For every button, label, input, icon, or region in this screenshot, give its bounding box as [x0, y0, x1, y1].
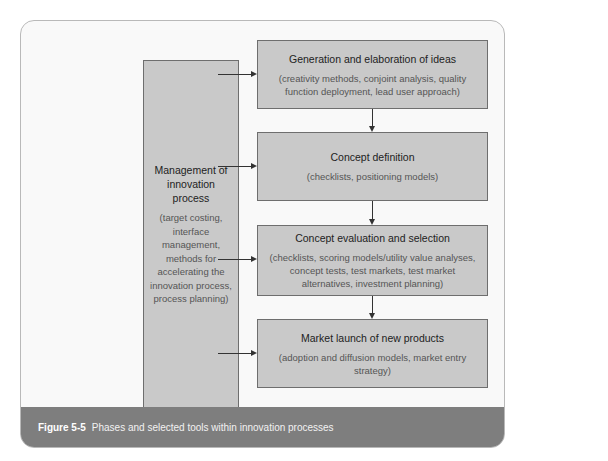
phase-title: Concept definition — [268, 150, 477, 164]
phase-tools: (creativity methods, conjoint analysis, … — [268, 72, 477, 98]
phase-box-concept-evaluation: Concept evaluation and selection (checkl… — [257, 225, 488, 296]
caption-bar: Figure 5-5 Phases and selected tools wit… — [21, 407, 504, 447]
connector-line — [218, 259, 252, 260]
arrow-right-icon — [251, 256, 257, 262]
phase-tools: (adoption and diffusion models, market e… — [268, 351, 477, 377]
figure-caption: Phases and selected tools within innovat… — [92, 422, 334, 433]
connector-line — [372, 296, 373, 313]
arrow-right-icon — [251, 71, 257, 77]
connector-line — [218, 353, 252, 354]
phase-title: Market launch of new products — [268, 331, 477, 345]
phase-title: Generation and elaboration of ideas — [268, 52, 477, 66]
connector-line — [372, 201, 373, 219]
arrow-down-icon — [369, 313, 375, 319]
arrow-down-icon — [369, 219, 375, 225]
phase-tools: (checklists, positioning models) — [268, 170, 477, 183]
phase-box-concept-definition: Concept definition (checklists, position… — [257, 132, 488, 201]
connector-line — [218, 166, 252, 167]
management-box: Management of innovation process (target… — [143, 60, 239, 409]
connector-line — [218, 74, 252, 75]
phase-box-market-launch: Market launch of new products (adoption … — [257, 319, 488, 388]
arrow-right-icon — [251, 350, 257, 356]
management-title: Management of innovation process — [150, 163, 232, 205]
figure-label: Figure 5-5 — [38, 422, 86, 433]
arrow-down-icon — [369, 126, 375, 132]
phase-box-ideas: Generation and elaboration of ideas (cre… — [257, 40, 488, 109]
phase-tools: (checklists, scoring models/utility valu… — [268, 251, 477, 290]
connector-line — [372, 109, 373, 126]
phase-title: Concept evaluation and selection — [268, 231, 477, 245]
arrow-right-icon — [251, 163, 257, 169]
